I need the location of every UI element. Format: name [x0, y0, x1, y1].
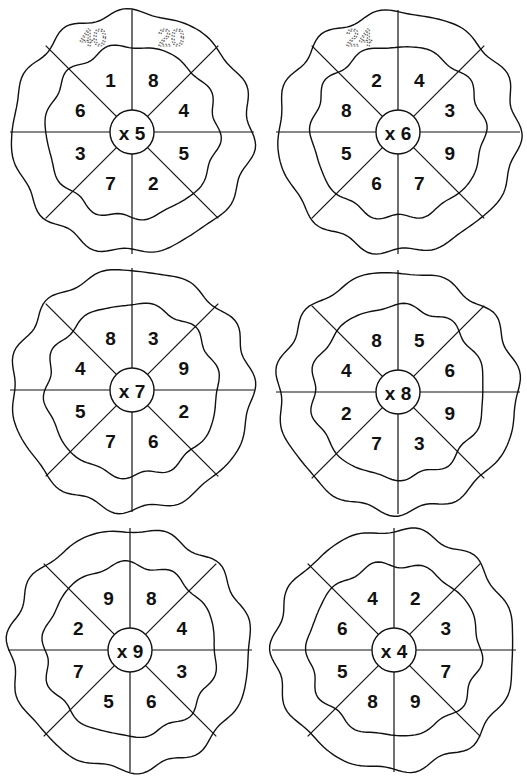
factor-number: 3	[148, 328, 159, 349]
factor-number: 9	[178, 358, 189, 379]
factor-number: 6	[444, 360, 455, 381]
factor-number: 2	[178, 401, 189, 422]
factor-number: 2	[410, 588, 421, 609]
factor-number: 3	[440, 618, 451, 639]
factor-number: 5	[103, 691, 114, 712]
factor-number: 6	[75, 100, 86, 121]
factor-number: 4	[75, 358, 86, 379]
multiplier-label: x 9	[117, 641, 143, 662]
multiplication-wheels-worksheet: x 5845273612040x 64397658224x 739267548x…	[0, 0, 527, 781]
factor-number: 6	[146, 691, 157, 712]
factor-number: 8	[146, 588, 157, 609]
factor-number: 8	[148, 70, 159, 91]
times-table-wheel: x 64397658224	[276, 10, 522, 254]
factor-number: 6	[337, 618, 348, 639]
factor-number: 4	[341, 360, 352, 381]
factor-number: 2	[148, 173, 159, 194]
factor-number: 3	[176, 661, 187, 682]
factor-number: 5	[75, 401, 86, 422]
multiplier-label: x 4	[381, 641, 408, 662]
factor-number: 4	[176, 618, 187, 639]
factor-number: 9	[444, 143, 455, 164]
factor-number: 8	[341, 100, 352, 121]
multiplier-label: x 5	[119, 123, 146, 144]
factor-number: 5	[414, 330, 425, 351]
factor-number: 7	[440, 661, 451, 682]
factor-number: 8	[105, 328, 116, 349]
factor-number: 9	[103, 588, 114, 609]
times-table-wheel: x 5845273612040	[10, 9, 256, 254]
multiplier-label: x 8	[385, 383, 411, 404]
factor-number: 2	[341, 403, 352, 424]
factor-number: 7	[73, 661, 84, 682]
factor-number: 7	[414, 173, 425, 194]
answer-cell[interactable]: 24	[346, 24, 373, 51]
factor-number: 7	[371, 433, 382, 454]
factor-number: 5	[337, 661, 348, 682]
factor-number: 8	[371, 330, 382, 351]
factor-number: 4	[178, 100, 189, 121]
multiplier-label: x 7	[119, 381, 145, 402]
answer-cell[interactable]: 40	[80, 24, 107, 51]
factor-number: 7	[105, 173, 116, 194]
times-table-wheel: x 739267548	[10, 268, 256, 514]
factor-number: 3	[414, 433, 425, 454]
times-table-wheel: x 856937248	[276, 270, 521, 516]
factor-number: 6	[371, 173, 382, 194]
factor-number: 7	[105, 431, 116, 452]
factor-number: 5	[341, 143, 352, 164]
factor-number: 6	[148, 431, 159, 452]
factor-number: 5	[178, 143, 189, 164]
factor-number: 8	[367, 691, 378, 712]
factor-number: 4	[367, 588, 378, 609]
multiplier-label: x 6	[385, 123, 411, 144]
times-table-wheel: x 423798564	[270, 528, 516, 773]
factor-number: 9	[444, 403, 455, 424]
factor-number: 9	[410, 691, 421, 712]
factor-number: 3	[75, 143, 86, 164]
factor-number: 4	[414, 70, 425, 91]
answer-cell[interactable]: 20	[158, 24, 185, 51]
factor-number: 2	[73, 618, 84, 639]
factor-number: 1	[105, 70, 116, 91]
factor-number: 3	[444, 100, 455, 121]
factor-number: 2	[371, 70, 382, 91]
times-table-wheel: x 984365729	[6, 528, 252, 774]
